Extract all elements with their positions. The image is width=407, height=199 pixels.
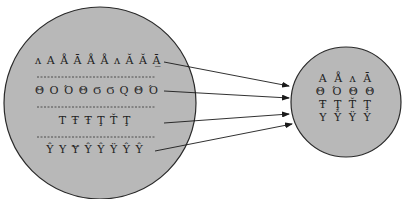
right-row-a-canonical: Α Å ʌ Ā — [311, 72, 381, 85]
left-row-a-variants: ʌ Α Å Ā Å Å ʌ Ă Ă Ā̲ — [35, 54, 155, 67]
right-row-theta-canonical: Θ Ό Θ Θ — [311, 85, 381, 98]
left-circle — [4, 7, 196, 199]
right-row-t-canonical: Ŧ Ţ Ť Ţ — [311, 98, 381, 111]
left-row-t-variants: Τ Ŧ Ŧ Ţ Ť Ţ — [35, 114, 155, 127]
left-row-theta-variants: Θ Ο Ό Θ Ϭ Ϭ Q Θ Ό — [35, 84, 155, 97]
left-row-y-variants: Ŷ Y Ɏ Ŷ Ŷ Ÿ Ŷ Ŷ — [35, 143, 155, 156]
right-row-y-canonical: Υ Ŷ Ÿ Ẏ — [311, 111, 381, 124]
